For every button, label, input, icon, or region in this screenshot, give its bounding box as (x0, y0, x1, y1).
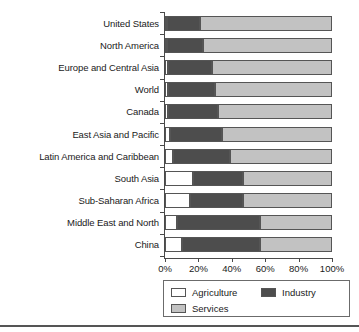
legend-item: Industry (261, 285, 316, 299)
legend-label: Industry (282, 287, 316, 298)
y-axis-tick (160, 12, 165, 13)
page-divider-rule (0, 325, 359, 327)
y-axis-tick (160, 234, 165, 235)
bar-segment-industry (170, 127, 222, 142)
category-label: Europe and Central Asia (0, 60, 159, 75)
bar-segment-services (260, 215, 332, 230)
bar-segment-services (243, 171, 332, 186)
y-axis-tick (160, 256, 165, 257)
category-label: Middle East and North (0, 215, 159, 230)
y-axis-tick (160, 101, 165, 102)
bar-segment-industry (173, 149, 230, 164)
bar-rows (165, 12, 332, 256)
category-label: World (0, 82, 159, 97)
category-axis-labels: United StatesNorth AmericaEurope and Cen… (0, 12, 159, 256)
table-row (165, 60, 332, 75)
x-axis-tick (165, 258, 166, 262)
bar-segment-agriculture (165, 171, 193, 186)
bar-segment-services (212, 60, 332, 75)
y-axis-tick (160, 145, 165, 146)
chart-legend: AgricultureIndustryServices (163, 280, 350, 317)
x-axis-tick-label: 100% (312, 263, 352, 275)
category-label: United States (0, 16, 159, 31)
x-axis-tick (332, 258, 333, 262)
bar-segment-services (218, 104, 332, 119)
bar-segment-agriculture (165, 215, 177, 230)
y-axis-tick (160, 34, 165, 35)
x-axis-line (164, 258, 333, 259)
category-label: China (0, 237, 159, 252)
bar-segment-industry (190, 193, 243, 208)
bar-segment-industry (177, 215, 261, 230)
legend-label: Agriculture (192, 287, 237, 298)
bar-segment-services (260, 237, 332, 252)
legend-swatch-industry (261, 288, 276, 297)
legend-label: Services (192, 303, 228, 314)
bar-segment-services (200, 16, 332, 31)
x-axis-tick (299, 258, 300, 262)
legend-item: Agriculture (171, 285, 237, 299)
bar-segment-agriculture (165, 149, 173, 164)
stacked-bar-chart: United StatesNorth AmericaEurope and Cen… (0, 0, 359, 332)
bar-segment-services (215, 82, 332, 97)
bar-segment-agriculture (165, 193, 190, 208)
bar-segment-industry (168, 60, 211, 75)
bar-segment-industry (167, 16, 200, 31)
x-axis-tick (265, 258, 266, 262)
table-row (165, 127, 332, 142)
category-label: Sub-Saharan Africa (0, 193, 159, 208)
category-label: North America (0, 38, 159, 53)
y-axis-tick (160, 56, 165, 57)
y-axis-tick (160, 79, 165, 80)
category-label: Canada (0, 104, 159, 119)
table-row (165, 149, 332, 164)
table-row (165, 82, 332, 97)
table-row (165, 215, 332, 230)
bar-segment-agriculture (165, 237, 182, 252)
x-axis-tick (198, 258, 199, 262)
category-label: Latin America and Caribbean (0, 149, 159, 164)
y-axis-tick (160, 167, 165, 168)
bar-segment-services (203, 38, 332, 53)
bar-segment-services (230, 149, 332, 164)
bar-segment-industry (182, 237, 260, 252)
category-label: East Asia and Pacific (0, 127, 159, 142)
legend-swatch-agriculture (171, 288, 186, 297)
y-axis-tick (160, 123, 165, 124)
table-row (165, 104, 332, 119)
bar-segment-industry (168, 104, 218, 119)
legend-swatch-services (171, 304, 186, 313)
bar-segment-industry (168, 82, 215, 97)
category-label: South Asia (0, 171, 159, 186)
bar-segment-industry (167, 38, 204, 53)
legend-item: Services (171, 301, 228, 315)
table-row (165, 237, 332, 252)
table-row (165, 193, 332, 208)
x-axis-tick (232, 258, 233, 262)
y-axis-tick (160, 189, 165, 190)
table-row (165, 171, 332, 186)
plot-area (165, 12, 332, 256)
table-row (165, 38, 332, 53)
bar-segment-services (222, 127, 332, 142)
table-row (165, 16, 332, 31)
bar-segment-industry (193, 171, 243, 186)
bar-segment-services (243, 193, 332, 208)
y-axis-tick (160, 212, 165, 213)
